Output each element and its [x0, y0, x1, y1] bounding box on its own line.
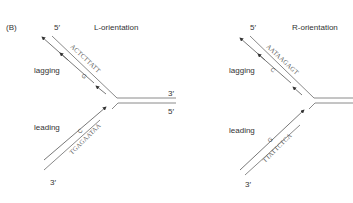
l-leading-label: leading [34, 123, 60, 132]
l-leading-base: C [76, 127, 84, 135]
l-lagging-sequence: ACTCTTATT [69, 43, 102, 74]
r-lagging-fragment-arrow [293, 87, 302, 95]
l-orientation-title: L-orientation [94, 23, 138, 32]
l-leading-sequence: TGAGAATAA [68, 121, 102, 155]
r-orientation-title: R-orientation [292, 23, 338, 32]
l-lagging-base: G [80, 72, 88, 80]
r-lagging-label: lagging [229, 66, 255, 75]
l-right-3prime-label: 3′ [168, 89, 174, 98]
l-bottom-template-strand-fork [112, 103, 176, 109]
l-lagging-label: lagging [34, 66, 60, 75]
r-leading-label: leading [229, 126, 255, 135]
l-top-5prime-label: 5′ [54, 23, 60, 32]
l-orientation-fork: L-orientation 5′ 3′ 5′ 3′ lagging leadin… [34, 23, 176, 187]
r-bottom-3prime-label: 3′ [245, 180, 251, 189]
r-orientation-fork: R-orientation 5′ 3′ lagging leading AATA… [229, 23, 353, 189]
l-lagging-fragment-arrow [96, 86, 106, 94]
r-leading-base: G [266, 136, 274, 144]
r-top-5prime-label: 5′ [250, 23, 256, 32]
l-right-5prime-label: 5′ [168, 107, 174, 116]
r-bottom-template-strand-fork [309, 103, 353, 109]
r-leading-sequence: TTATTCTCA [261, 131, 293, 163]
panel-label: (B) [6, 23, 17, 32]
l-bottom-3prime-label: 3′ [50, 178, 56, 187]
replication-fork-diagram: (B) L-orientation 5′ 3′ 5′ 3′ lagging le… [0, 0, 353, 203]
r-top-template-strand [250, 36, 353, 98]
